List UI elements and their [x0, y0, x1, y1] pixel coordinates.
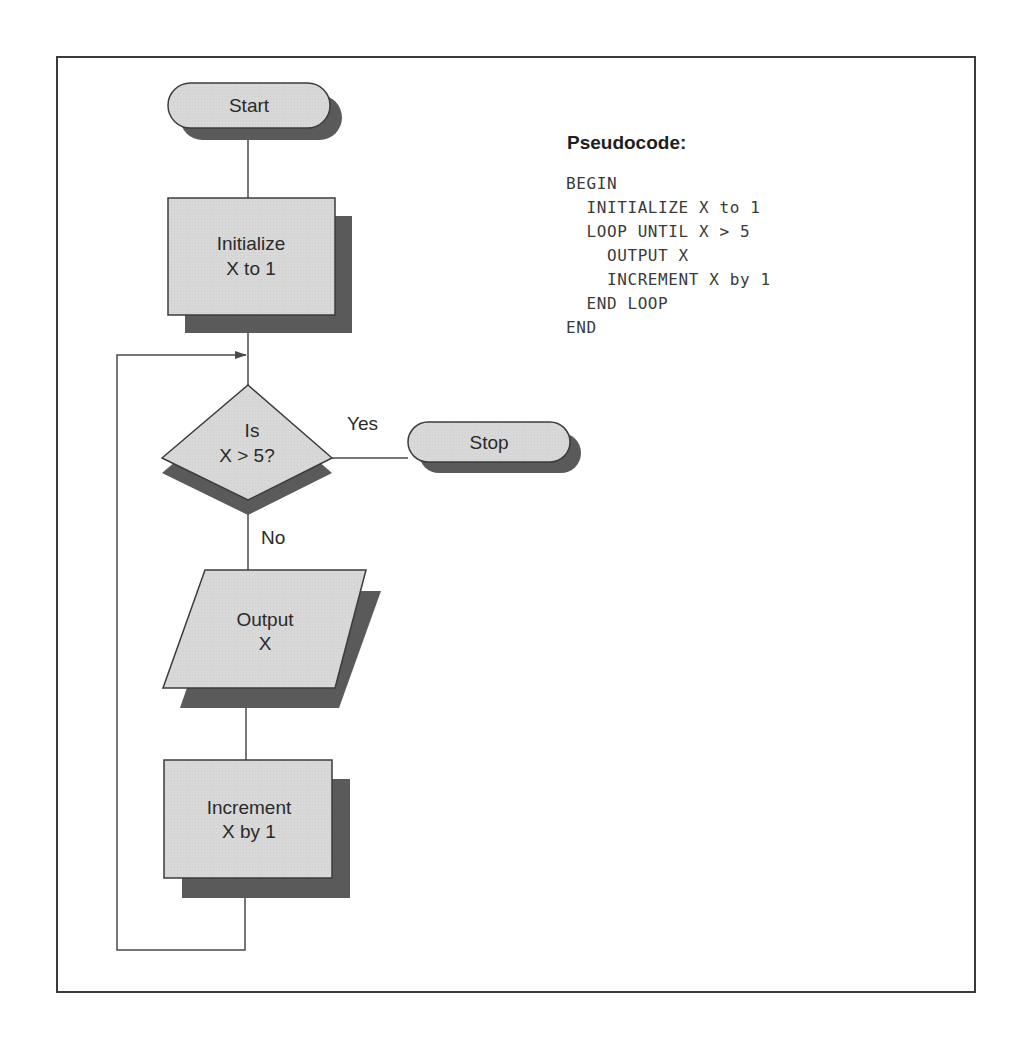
pseudocode-line: END: [566, 316, 771, 340]
node-stop: Stop: [408, 422, 581, 473]
start-label: Start: [229, 95, 270, 116]
pseudocode-line: INITIALIZE X to 1: [566, 196, 771, 220]
initialize-shape: [168, 198, 335, 315]
node-decision: Is X > 5?: [162, 385, 332, 515]
no-branch-label: No: [261, 527, 285, 548]
pseudocode-line: LOOP UNTIL X > 5: [566, 220, 771, 244]
decision-label-line-2: X > 5?: [219, 445, 274, 466]
pseudocode-line: END LOOP: [566, 292, 771, 316]
pseudocode-line: OUTPUT X: [566, 244, 771, 268]
node-start: Start: [168, 83, 342, 140]
initialize-label-line-1: Initialize: [217, 233, 286, 254]
decision-label-line-1: Is: [245, 420, 260, 441]
pseudocode-line: INCREMENT X by 1: [566, 268, 771, 292]
output-label-line-1: Output: [236, 609, 294, 630]
node-initialize: Initialize X to 1: [168, 198, 352, 333]
yes-branch-label: Yes: [347, 413, 378, 434]
pseudocode-block: BEGIN INITIALIZE X to 1 LOOP UNTIL X > 5…: [566, 172, 771, 340]
increment-label-line-2: X by 1: [222, 821, 276, 842]
figure: Start Initialize X to 1 Is X > 5? Yes No…: [0, 0, 1032, 1044]
flowchart: Start Initialize X to 1 Is X > 5? Yes No…: [0, 0, 1032, 1044]
increment-label-line-1: Increment: [207, 797, 292, 818]
pseudocode-title: Pseudocode:: [567, 132, 686, 154]
pseudocode-line: BEGIN: [566, 172, 771, 196]
stop-label: Stop: [469, 432, 508, 453]
output-label-line-2: X: [259, 633, 272, 654]
initialize-label-line-2: X to 1: [226, 258, 276, 279]
node-increment: Increment X by 1: [164, 760, 350, 898]
increment-shape: [164, 760, 332, 878]
node-output: Output X: [163, 570, 381, 708]
